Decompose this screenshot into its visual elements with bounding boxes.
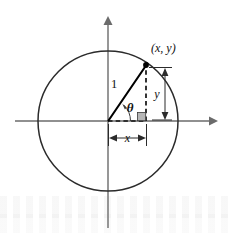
unit-circle-figure: (x, y) 1 θ x y: [0, 0, 229, 233]
vertical-leg-label: y: [153, 87, 160, 101]
x-dimension-right-arrowhead-icon: [138, 135, 146, 142]
angle-theta-label: θ: [127, 100, 134, 115]
terminal-point-dot: [143, 62, 149, 68]
figure-canvas: (x, y) 1 θ x y: [0, 0, 229, 233]
axes-group: [15, 16, 218, 228]
y-dimension-up-arrowhead-icon: [162, 68, 169, 76]
y-dimension-down-arrowhead-icon: [162, 112, 169, 120]
x-dimension-left-arrowhead-icon: [109, 135, 117, 142]
right-angle-marker-icon: [138, 113, 146, 121]
point-coordinates-label: (x, y): [151, 41, 176, 55]
x-axis-arrowhead-icon: [209, 117, 218, 126]
radius-length-label: 1: [111, 77, 117, 91]
y-axis-arrowhead-icon: [104, 16, 113, 25]
horizontal-leg-label: x: [124, 131, 131, 145]
